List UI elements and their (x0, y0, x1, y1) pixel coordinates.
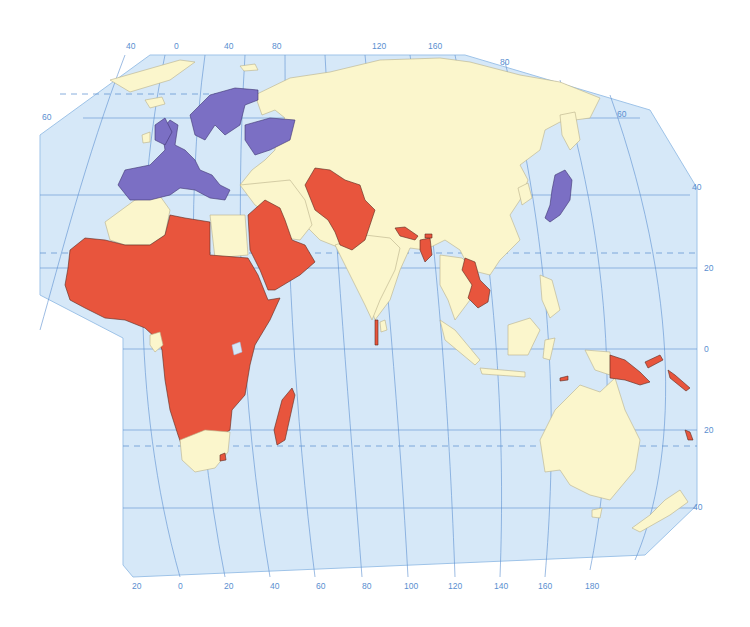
region-red-maldives (375, 320, 378, 345)
top-longitude-label: 40 (224, 42, 233, 51)
right-latitude-label: 0 (704, 345, 709, 354)
bottom-longitude-label: 140 (494, 582, 508, 591)
region-red-bhutan (425, 234, 432, 238)
right-latitude-label: 80 (500, 58, 509, 67)
land-tasmania (592, 508, 602, 518)
bottom-longitude-label: 160 (538, 582, 552, 591)
right-latitude-label: 60 (617, 110, 626, 119)
world-map (0, 0, 750, 627)
right-latitude-label: 20 (704, 426, 713, 435)
bottom-longitude-label: 80 (362, 582, 371, 591)
top-longitude-label: 120 (372, 42, 386, 51)
right-latitude-label: 20 (704, 264, 713, 273)
right-latitude-label: 40 (692, 183, 701, 192)
bottom-longitude-label: 20 (224, 582, 233, 591)
right-latitude-label: 40 (693, 503, 702, 512)
top-longitude-label: 40 (126, 42, 135, 51)
left-latitude-label: 60 (42, 113, 51, 122)
bottom-longitude-label: 120 (448, 582, 462, 591)
top-longitude-label: 160 (428, 42, 442, 51)
top-longitude-label: 0 (174, 42, 179, 51)
top-longitude-label: 80 (272, 42, 281, 51)
bottom-longitude-label: 0 (178, 582, 183, 591)
bottom-longitude-label: 20 (132, 582, 141, 591)
bottom-longitude-label: 60 (316, 582, 325, 591)
land-egypt (210, 215, 248, 258)
bottom-longitude-label: 40 (270, 582, 279, 591)
bottom-longitude-label: 100 (404, 582, 418, 591)
bottom-longitude-label: 180 (585, 582, 599, 591)
